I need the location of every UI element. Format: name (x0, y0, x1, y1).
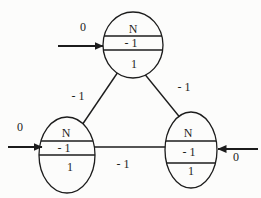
edge-top-to-left (80, 72, 118, 128)
node-left-name: N (62, 126, 71, 140)
node-top-threshold: - 1 (125, 36, 138, 50)
node-top-name: N (129, 22, 138, 36)
node-top-output: 1 (131, 57, 137, 71)
node-left-threshold: - 1 (58, 141, 71, 155)
node-right-threshold: - 1 (183, 145, 196, 159)
input-left-label: 0 (17, 120, 23, 134)
node-right-output: 1 (188, 164, 194, 178)
node-top: N - 1 1 (103, 12, 163, 78)
node-right: N - 1 1 (165, 112, 217, 188)
edge-top-to-right (143, 72, 182, 120)
node-left-output: 1 (67, 160, 73, 174)
edge-top-left-weight: - 1 (72, 89, 85, 103)
edge-top-right-weight: - 1 (178, 80, 191, 94)
input-right-label: 0 (233, 150, 239, 164)
edge-bottom-weight: - 1 (117, 157, 130, 171)
input-top-label: 0 (80, 20, 86, 34)
neural-network-diagram: N - 1 1 N - 1 1 N - 1 1 0 0 0 - 1 - 1 - … (0, 0, 261, 198)
node-right-name: N (184, 126, 193, 140)
node-left: N - 1 1 (39, 117, 95, 193)
